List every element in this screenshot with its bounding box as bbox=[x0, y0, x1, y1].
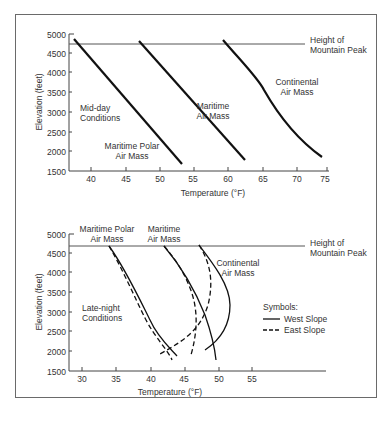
y-tick-label: 4000 bbox=[47, 68, 66, 78]
top-x-tick-labels: 40 45 50 55 60 65 70 75 bbox=[86, 167, 330, 184]
top-chart: 5000 4500 4000 3500 3000 2500 2000 1500 … bbox=[34, 30, 367, 198]
x-tick-label: 50 bbox=[214, 374, 224, 384]
bottom-maritime-polar-west bbox=[109, 246, 177, 356]
bottom-peak-label: Height of bbox=[310, 238, 345, 248]
bottom-conditions-label: Late-night bbox=[82, 303, 120, 313]
bottom-x-axis-label: Temperature (°F) bbox=[138, 387, 203, 397]
x-tick-label: 35 bbox=[111, 374, 121, 384]
bottom-peak-label: Mountain Peak bbox=[310, 248, 367, 258]
y-tick-label: 4500 bbox=[47, 49, 66, 59]
top-peak-label: Height of bbox=[310, 35, 345, 45]
y-tick-label: 5000 bbox=[47, 30, 66, 40]
x-tick-label: 55 bbox=[188, 174, 198, 184]
y-tick-label: 3500 bbox=[47, 88, 66, 98]
top-maritime-label: Air Mass bbox=[196, 111, 229, 121]
top-x-axis-label: Temperature (°F) bbox=[181, 188, 246, 198]
top-maritime-polar-label: Maritime Polar bbox=[105, 141, 160, 151]
y-tick-label: 2500 bbox=[47, 128, 66, 138]
x-tick-label: 75 bbox=[320, 174, 330, 184]
top-maritime-polar-label: Air Mass bbox=[115, 151, 148, 161]
y-tick-label: 2000 bbox=[47, 347, 66, 357]
bottom-y-tick-labels: 5000 4500 4000 3500 3000 2500 2000 1500 bbox=[47, 230, 72, 377]
x-tick-label: 65 bbox=[258, 174, 268, 184]
legend-west-slope: West Slope bbox=[284, 314, 328, 324]
top-continental-label: Air Mass bbox=[280, 87, 313, 97]
top-continental-label: Continental bbox=[275, 77, 318, 87]
figure-caption-clipped bbox=[15, 412, 377, 422]
x-tick-label: 45 bbox=[179, 374, 189, 384]
y-tick-label: 5000 bbox=[47, 230, 66, 240]
x-tick-label: 55 bbox=[247, 374, 257, 384]
bottom-maritime-polar-label: Air Mass bbox=[90, 234, 123, 244]
y-tick-label: 2000 bbox=[47, 147, 66, 157]
legend-east-slope: East Slope bbox=[284, 325, 325, 335]
figure-svg: 5000 4500 4000 3500 3000 2500 2000 1500 … bbox=[0, 0, 391, 422]
x-tick-label: 40 bbox=[146, 374, 156, 384]
y-tick-label: 3000 bbox=[47, 308, 66, 318]
top-y-tick-labels: 5000 4500 4000 3500 3000 2500 2000 1500 bbox=[47, 30, 72, 177]
bottom-maritime-polar-label: Maritime Polar bbox=[80, 224, 135, 234]
y-tick-label: 3000 bbox=[47, 108, 66, 118]
bottom-continental-label: Continental bbox=[216, 258, 259, 268]
y-tick-label: 4500 bbox=[47, 249, 66, 259]
x-tick-label: 70 bbox=[292, 174, 302, 184]
x-tick-label: 45 bbox=[121, 174, 131, 184]
top-peak-label: Mountain Peak bbox=[310, 45, 367, 55]
top-maritime-label: Maritime bbox=[197, 101, 230, 111]
bottom-chart: 5000 4500 4000 3500 3000 2500 2000 1500 … bbox=[34, 224, 367, 397]
top-series-continental bbox=[223, 40, 322, 157]
x-tick-label: 60 bbox=[223, 174, 233, 184]
bottom-x-tick-labels: 30 35 40 45 50 55 bbox=[77, 367, 257, 384]
bottom-continental-label: Air Mass bbox=[221, 268, 254, 278]
bottom-continental-east bbox=[160, 245, 211, 354]
y-tick-label: 1500 bbox=[47, 167, 66, 177]
top-conditions-label: Mid-day bbox=[80, 103, 111, 113]
top-y-axis-label: Elevation (feet) bbox=[34, 73, 44, 130]
y-tick-label: 1500 bbox=[47, 367, 66, 377]
bottom-conditions-label: Conditions bbox=[82, 313, 122, 323]
y-tick-label: 4000 bbox=[47, 268, 66, 278]
x-tick-label: 50 bbox=[155, 174, 165, 184]
bottom-y-axis-label: Elevation (feet) bbox=[34, 273, 44, 330]
y-tick-label: 2500 bbox=[47, 327, 66, 337]
bottom-maritime-east bbox=[164, 246, 196, 355]
legend: Symbols: West Slope East Slope bbox=[263, 302, 328, 335]
bottom-maritime-label: Maritime bbox=[148, 224, 181, 234]
legend-title: Symbols: bbox=[263, 302, 298, 312]
bottom-maritime-label: Air Mass bbox=[147, 234, 180, 244]
y-tick-label: 3500 bbox=[47, 288, 66, 298]
x-tick-label: 30 bbox=[77, 374, 87, 384]
x-tick-label: 40 bbox=[86, 174, 96, 184]
top-conditions-label: Conditions bbox=[80, 113, 120, 123]
